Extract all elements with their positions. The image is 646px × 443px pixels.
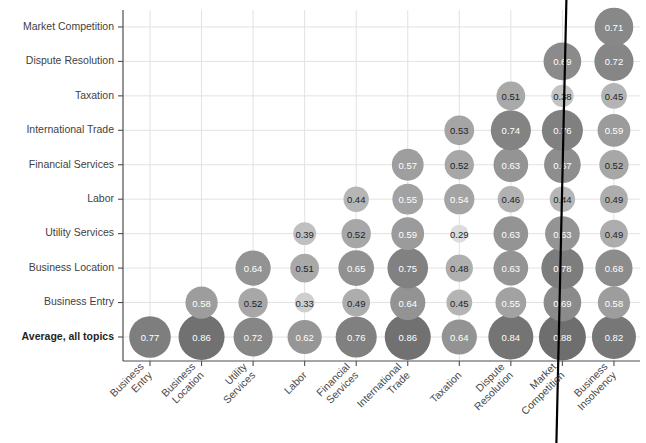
bubble-cell[interactable]: 0.39 <box>293 222 316 245</box>
bubble-cell[interactable]: 0.58 <box>598 286 630 318</box>
bubble-cell[interactable]: 0.49 <box>600 220 628 248</box>
bubble-cell[interactable]: 0.75 <box>387 248 428 289</box>
bubble-marker[interactable] <box>444 184 474 214</box>
bubble-marker[interactable] <box>493 147 528 182</box>
bubble-cell[interactable]: 0.69 <box>544 43 582 81</box>
bubble-cell[interactable]: 0.53 <box>444 115 474 145</box>
bubble-marker[interactable] <box>444 115 474 145</box>
bubble-marker[interactable] <box>235 250 270 285</box>
bubble-marker[interactable] <box>491 110 531 150</box>
bubble-cell[interactable]: 0.38 <box>551 85 573 107</box>
bubble-marker[interactable] <box>600 220 628 248</box>
bubble-marker[interactable] <box>344 187 369 212</box>
bubble-cell[interactable]: 0.52 <box>445 150 474 179</box>
bubble-marker[interactable] <box>544 284 582 322</box>
bubble-marker[interactable] <box>598 114 631 147</box>
bubble-marker[interactable] <box>541 247 583 289</box>
bubble-marker[interactable] <box>336 316 377 357</box>
bubble-marker[interactable] <box>342 289 370 317</box>
bubble-marker[interactable] <box>445 150 474 179</box>
bubble-marker[interactable] <box>234 317 273 356</box>
bubble-marker[interactable] <box>390 285 425 320</box>
bubble-cell[interactable]: 0.78 <box>541 247 583 289</box>
bubble-cell[interactable]: 0.86 <box>179 314 225 360</box>
bubble-cell[interactable]: 0.71 <box>595 8 634 47</box>
bubble-cell[interactable]: 0.74 <box>491 110 531 150</box>
bubble-cell[interactable]: 0.69 <box>544 284 582 322</box>
bubble-cell[interactable]: 0.65 <box>338 250 374 286</box>
bubble-marker[interactable] <box>495 287 526 318</box>
bubble-marker[interactable] <box>601 83 627 109</box>
bubble-cell[interactable]: 0.68 <box>595 250 632 287</box>
bubble-marker[interactable] <box>493 216 528 251</box>
bubble-cell[interactable]: 0.44 <box>344 187 369 212</box>
bubble-marker[interactable] <box>342 219 371 248</box>
bubble-cell[interactable]: 0.63 <box>493 251 528 286</box>
bubble-cell[interactable]: 0.63 <box>493 216 528 251</box>
bubble-cell[interactable]: 0.54 <box>444 184 474 214</box>
bubble-marker[interactable] <box>288 320 322 354</box>
bubble-marker[interactable] <box>496 81 525 110</box>
bubble-marker[interactable] <box>446 254 473 281</box>
bubble-marker[interactable] <box>598 286 630 318</box>
bubble-marker[interactable] <box>493 251 528 286</box>
bubble-marker[interactable] <box>295 293 315 313</box>
bubble-cell[interactable]: 0.46 <box>498 186 524 212</box>
bubble-cell[interactable]: 0.51 <box>496 81 525 110</box>
bubble-marker[interactable] <box>338 250 374 286</box>
bubble-cell[interactable]: 0.33 <box>295 293 315 313</box>
bubble-marker[interactable] <box>450 225 468 243</box>
bubble-marker[interactable] <box>392 149 424 181</box>
bubble-cell[interactable]: 0.29 <box>450 225 469 243</box>
bubble-marker[interactable] <box>391 217 424 250</box>
bubble-marker[interactable] <box>442 319 477 354</box>
bubble-marker[interactable] <box>594 42 633 81</box>
bubble-marker[interactable] <box>129 316 171 358</box>
bubble-cell[interactable]: 0.49 <box>600 185 628 213</box>
bubble-marker[interactable] <box>595 250 632 287</box>
bubble-cell[interactable]: 0.52 <box>238 288 267 317</box>
bubble-marker[interactable] <box>392 184 423 215</box>
bubble-marker[interactable] <box>595 8 634 47</box>
bubble-marker[interactable] <box>446 290 472 316</box>
bubble-cell[interactable]: 0.45 <box>446 290 472 316</box>
bubble-cell[interactable]: 0.49 <box>342 289 370 317</box>
bubble-marker[interactable] <box>592 315 636 359</box>
bubble-marker[interactable] <box>551 85 573 107</box>
bubble-cell[interactable]: 0.77 <box>129 316 171 358</box>
bubble-marker[interactable] <box>599 150 628 179</box>
bubble-cell[interactable]: 0.57 <box>392 149 424 181</box>
bubble-cell[interactable]: 0.84 <box>488 314 533 359</box>
bubble-marker[interactable] <box>498 186 524 212</box>
bubble-marker[interactable] <box>488 314 533 359</box>
bubble-cell[interactable]: 0.64 <box>235 250 270 285</box>
bubble-cell[interactable]: 0.82 <box>592 315 636 359</box>
bubble-marker[interactable] <box>290 254 319 283</box>
bubble-cell[interactable]: 0.48 <box>446 254 473 281</box>
bubble-marker[interactable] <box>238 288 267 317</box>
bubble-cell[interactable]: 0.64 <box>442 319 477 354</box>
bubble-cell[interactable]: 0.59 <box>598 114 631 147</box>
bubble-cell[interactable]: 0.52 <box>342 219 371 248</box>
bubble-cell[interactable]: 0.58 <box>185 286 217 318</box>
bubble-marker[interactable] <box>387 248 428 289</box>
bubble-marker[interactable] <box>544 43 582 81</box>
bubble-cell[interactable]: 0.55 <box>392 184 423 215</box>
bubble-cell[interactable]: 0.72 <box>594 42 633 81</box>
bubble-marker[interactable] <box>600 185 628 213</box>
bubble-cell[interactable]: 0.59 <box>391 217 424 250</box>
bubble-marker[interactable] <box>293 222 316 245</box>
bubble-cell[interactable]: 0.64 <box>390 285 425 320</box>
bubble-cell[interactable]: 0.55 <box>495 287 526 318</box>
bubble-cell[interactable]: 0.72 <box>234 317 273 356</box>
bubble-marker[interactable] <box>385 314 431 360</box>
bubble-cell[interactable]: 0.51 <box>290 254 319 283</box>
bubble-cell[interactable]: 0.76 <box>336 316 377 357</box>
bubble-marker[interactable] <box>179 314 225 360</box>
bubble-cell[interactable]: 0.63 <box>493 147 528 182</box>
bubble-cell[interactable]: 0.52 <box>599 150 628 179</box>
bubble-cell[interactable]: 0.45 <box>601 83 627 109</box>
bubble-marker[interactable] <box>185 286 217 318</box>
bubble-cell[interactable]: 0.86 <box>385 314 431 360</box>
bubble-cell[interactable]: 0.62 <box>288 320 322 354</box>
